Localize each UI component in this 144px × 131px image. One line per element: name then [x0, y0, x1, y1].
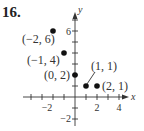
x-tick-label: 2 — [95, 102, 100, 113]
scatter-plot: x y −2 2 4 6 −2 (−2, 6) (−1, 4) (0, 2) (… — [0, 0, 144, 131]
point-label: (2, 1) — [102, 79, 128, 93]
point-label: (0, 2) — [44, 68, 70, 82]
data-point — [61, 50, 67, 56]
x-tick-label: 4 — [117, 102, 122, 113]
point-label: (−2, 6) — [22, 32, 55, 46]
data-point — [72, 72, 78, 78]
leader-line — [87, 72, 95, 84]
y-tick-label: −2 — [60, 113, 71, 124]
point-label: (1, 1) — [91, 59, 117, 73]
x-axis — [23, 94, 129, 100]
point-label: (−1, 4) — [27, 53, 60, 67]
data-point — [94, 83, 100, 89]
y-tick-label: 6 — [66, 26, 71, 37]
y-axis-label: y — [77, 4, 83, 15]
data-point — [83, 83, 89, 89]
x-tick-label: −2 — [42, 102, 53, 113]
y-axis — [72, 12, 78, 126]
x-axis-label: x — [130, 91, 136, 102]
